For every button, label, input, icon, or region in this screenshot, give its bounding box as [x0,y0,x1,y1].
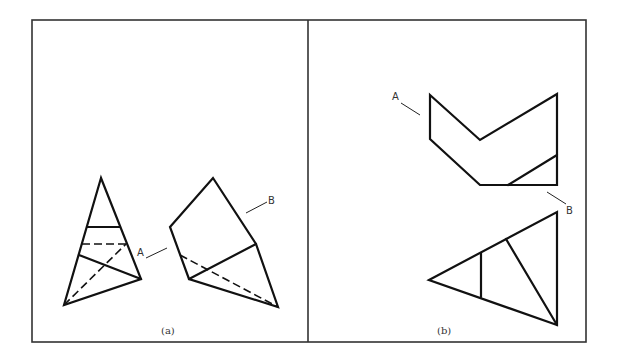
chevron-inner-line [508,155,557,185]
pyramid-outline [64,178,141,305]
chevron-outline [430,94,557,185]
panel-a: A B (a) [64,178,278,336]
section-line-lower [79,255,141,279]
outer-frame [32,20,586,342]
leader-a-right [401,103,420,115]
label-b-left: B [268,195,275,206]
leader-b-right [547,192,566,204]
label-b-right: B [566,205,573,216]
leader-a-left [146,248,167,258]
chevron-piece [430,94,557,185]
panel-b: A B (b) [392,91,573,336]
pyramid-solid [64,178,141,305]
caption-b: (b) [437,325,451,336]
solid-b-outline [170,178,278,307]
label-a-right: A [392,91,399,102]
triangle-piece [429,212,557,325]
figure-canvas: A B (a) A B (b) [0,0,618,361]
leader-b-left [246,202,267,213]
triangle-diagonal-line [506,239,557,325]
solid-b-edge [189,244,256,279]
caption-a: (a) [161,325,175,336]
triangle-outline [429,212,557,325]
cut-solid-b [170,178,278,307]
label-a-left: A [137,247,144,258]
